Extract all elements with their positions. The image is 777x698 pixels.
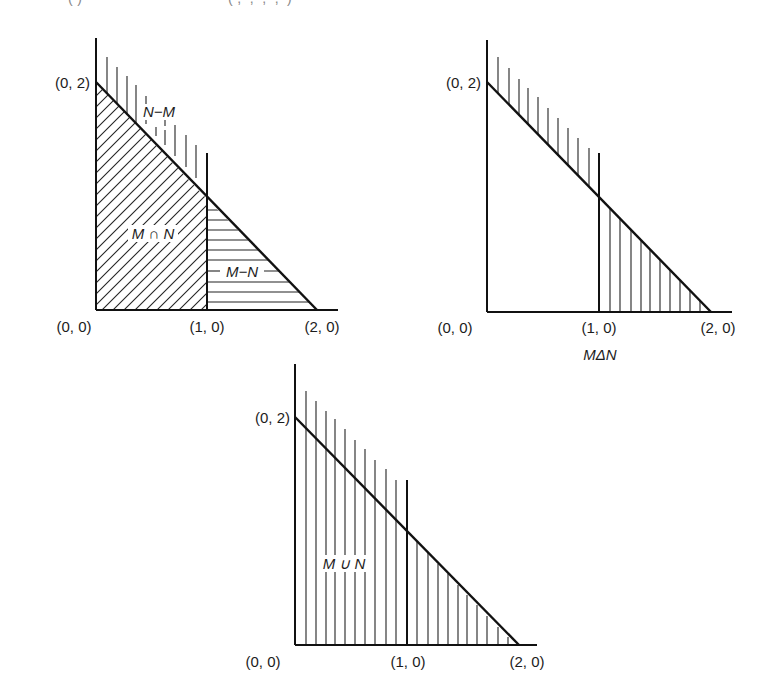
diagram-symmetric-difference: (0, 2) (0, 0) (1, 0) (2, 0) MΔN [437,40,735,363]
point-label-0-2: (0, 2) [255,409,290,426]
point-label-0-0: (0, 0) [437,319,472,336]
header-cutoff-left: (·) [68,0,82,6]
diagram-union: (0, 2) (0, 0) (1, 0) (2, 0) M ∪ N [245,364,544,670]
point-label-2-0: (2, 0) [304,318,339,335]
point-label-2-0: (2, 0) [509,653,544,670]
point-label-1-0: (1, 0) [581,319,616,336]
point-label-0-2: (0, 2) [446,74,481,91]
diagram-caption: MΔN [583,346,617,363]
region-label-m-union-n: M ∪ N [323,555,366,572]
region-label-m-intersect-n: M ∩ N [132,225,175,242]
point-label-2-0: (2, 0) [700,319,735,336]
point-label-1-0: (1, 0) [390,653,425,670]
set-diagrams-canvas: (·) (·, ·, ·, ·, ·) [0,0,777,698]
point-label-0-0: (0, 0) [245,653,280,670]
hatch-m-minus-n [207,210,330,302]
point-label-1-0: (1, 0) [189,318,224,335]
point-label-0-0: (0, 0) [56,318,91,335]
hatch-n-minus-m [498,57,589,187]
region-label-n-minus-m: N−M [143,103,176,120]
header-cutoff-right: (·, ·, ·, ·, ·) [228,0,292,6]
region-label-m-minus-n: M−N [226,263,258,280]
point-label-0-2: (0, 2) [55,74,90,91]
hatch-m-minus-n [610,209,700,312]
